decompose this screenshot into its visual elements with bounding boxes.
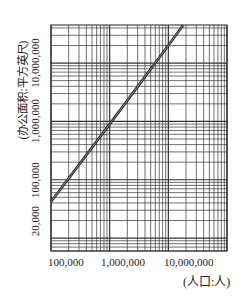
x-axis-title: (人口:人): [183, 272, 230, 290]
plot-frame: [51, 25, 227, 251]
x-tick-label-100000: 100,000: [48, 256, 84, 268]
x-tick-label-1000000: 1,000,000: [101, 256, 145, 268]
y-axis-title: (办公面积:平方英尺): [14, 40, 30, 140]
x-tick-label-10000000: 10,000,000: [164, 256, 214, 268]
data-series-line: [51, 25, 183, 202]
y-tick-label-20000: 20,000: [29, 186, 41, 256]
chart-grid: [51, 25, 227, 251]
